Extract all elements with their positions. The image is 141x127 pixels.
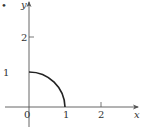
y-tick-label-1: 1 — [3, 67, 9, 78]
y-axis-label: y — [20, 0, 27, 10]
x-tick-label-2: 2 — [98, 109, 104, 120]
x-axis-label: x — [134, 109, 140, 120]
x-tick-label-1: 1 — [63, 109, 69, 120]
quarter-circle-curve — [29, 72, 65, 107]
chart-canvas: • y 2 1 0 1 2 x — [0, 0, 141, 127]
origin-label: 0 — [24, 109, 30, 120]
y-tick-label-2: 2 — [21, 32, 27, 43]
problem-marker: • — [1, 0, 7, 11]
